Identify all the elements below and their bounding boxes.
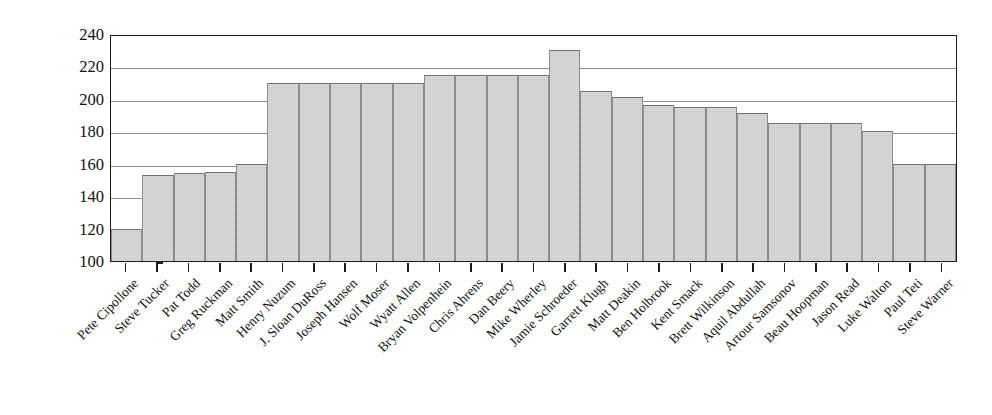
x-axis-tick-mark: [815, 263, 817, 272]
x-axis-tick-mark: [533, 263, 535, 272]
x-axis-tick-mark: [344, 263, 346, 272]
x-axis-tick-mark: [909, 263, 911, 272]
x-axis-tick-mark: [690, 263, 692, 272]
bar: [549, 50, 580, 261]
x-axis-tick-mark: [470, 263, 472, 272]
x-axis-tick-mark: [784, 263, 786, 272]
x-axis-tick-mark: [376, 263, 378, 272]
x-axis-tick-mark: [501, 263, 503, 272]
x-axis-tick-mark: [595, 263, 597, 272]
x-axis-tick-mark: [188, 263, 190, 272]
x-axis-tick-mark: [878, 263, 880, 272]
y-axis-tick-label: 180: [60, 124, 104, 141]
x-axis-tick-mark: [658, 263, 660, 272]
y-axis-tick-label: 200: [60, 92, 104, 109]
x-axis-tick-mark: [219, 263, 221, 272]
y-axis-tick-label: 160: [60, 156, 104, 173]
y-axis-tick-labels: 240220200180160140120100: [52, 0, 104, 415]
y-axis-tick-label: 120: [60, 221, 104, 238]
x-axis-tick-mark: [313, 263, 315, 272]
x-axis-tick-mark: [627, 263, 629, 272]
x-axis-tick-mark: [941, 263, 943, 272]
x-axis-tick-mark: [721, 263, 723, 272]
x-axis-tick-mark: [250, 263, 252, 272]
x-axis-tick-mark: [156, 263, 158, 272]
y-axis-tick-label: 220: [60, 59, 104, 76]
x-axis-tick-mark: [282, 263, 284, 272]
x-axis-tick-mark: [846, 263, 848, 272]
x-axis-tick-mark: [439, 263, 441, 272]
y-axis-tick-label: 240: [60, 27, 104, 44]
x-axis-tick-mark: [564, 263, 566, 272]
x-axis-tick-mark: [125, 263, 127, 272]
x-axis-tick-mark: [407, 263, 409, 272]
bar: [111, 229, 142, 261]
y-axis-tick-label: 100: [60, 254, 104, 271]
y-axis-tick-label: 140: [60, 189, 104, 206]
x-axis-tick-mark: [752, 263, 754, 272]
weight-bar-chart: Weight 240220200180160140120100 Pete Cip…: [0, 0, 992, 415]
